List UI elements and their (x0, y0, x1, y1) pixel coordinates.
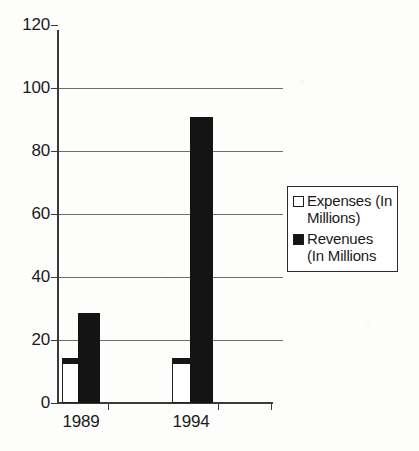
x-tick-mark-1994 (218, 403, 219, 410)
y-tick-label-40: 40 (4, 267, 50, 287)
y-tick-mark-100 (51, 88, 58, 89)
gridline-40 (57, 277, 283, 278)
gridline-60 (57, 214, 283, 215)
gridline-100 (57, 88, 283, 89)
bar-revenues-1989[interactable] (78, 313, 100, 403)
y-tick-60: 60 (0, 204, 50, 224)
y-tick-100: 100 (0, 78, 50, 98)
y-tick-label-80: 80 (4, 141, 50, 161)
x-tick-label-1989: 1989 (41, 412, 121, 432)
y-tick-mark-40 (51, 277, 58, 278)
legend-swatch-revenues-icon (293, 234, 304, 245)
y-tick-mark-20 (51, 340, 58, 341)
y-tick-mark-60 (51, 214, 58, 215)
y-axis-line (57, 30, 59, 404)
chart-legend: Expenses (In Millions) Revenues (In Mill… (287, 186, 398, 272)
x-tick-mark-end (271, 403, 272, 410)
legend-label-expenses: Expenses (In Millions) (307, 192, 393, 226)
x-tick-mark-1989 (108, 403, 109, 410)
legend-swatch-expenses-icon (293, 196, 304, 207)
bar-chart-screenshot: 120 100 80 60 40 20 0 (0, 0, 419, 451)
y-tick-120: 120 (0, 15, 50, 35)
y-tick-20: 20 (0, 330, 50, 350)
y-tick-label-60: 60 (4, 204, 50, 224)
y-tick-label-120: 120 (4, 15, 50, 35)
y-tick-40: 40 (0, 267, 50, 287)
y-tick-label-20: 20 (4, 330, 50, 350)
y-tick-0: 0 (0, 393, 50, 413)
y-tick-label-0: 0 (4, 393, 50, 413)
y-tick-mark-80 (51, 151, 58, 152)
plot-area: 120 100 80 60 40 20 0 (0, 0, 419, 451)
y-tick-mark-0 (51, 403, 58, 404)
y-tick-80: 80 (0, 141, 50, 161)
legend-item-revenues[interactable]: Revenues (In Millions (293, 230, 393, 264)
gridline-80 (57, 151, 283, 152)
legend-item-expenses[interactable]: Expenses (In Millions) (293, 192, 393, 226)
y-tick-label-100: 100 (4, 78, 50, 98)
legend-label-revenues: Revenues (In Millions (307, 230, 393, 264)
x-tick-label-1994: 1994 (151, 412, 231, 432)
bar-revenues-1994[interactable] (190, 117, 213, 403)
y-tick-mark-120 (51, 25, 58, 26)
